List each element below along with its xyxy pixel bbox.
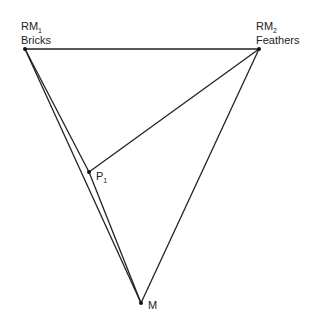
point-rm1 [23, 47, 27, 51]
edge-rm2-m [141, 49, 259, 303]
edge-rm1-m [25, 49, 141, 303]
point-m [139, 301, 143, 305]
label-rm1-name: Bricks [21, 34, 51, 46]
edge-p1-rm2 [89, 49, 259, 172]
label-m: M [148, 299, 157, 311]
label-rm2: RM2 [256, 20, 277, 34]
label-rm2-name: Feathers [256, 34, 300, 46]
point-rm2 [257, 47, 261, 51]
label-p1: P1 [96, 170, 107, 184]
label-rm1: RM1 [21, 20, 42, 34]
edge-rm1-p1 [25, 49, 89, 172]
triangle-diagram: RM1 Bricks RM2 Feathers P1 M [0, 0, 312, 326]
point-p1 [87, 170, 91, 174]
edge-p1-m [89, 172, 141, 303]
